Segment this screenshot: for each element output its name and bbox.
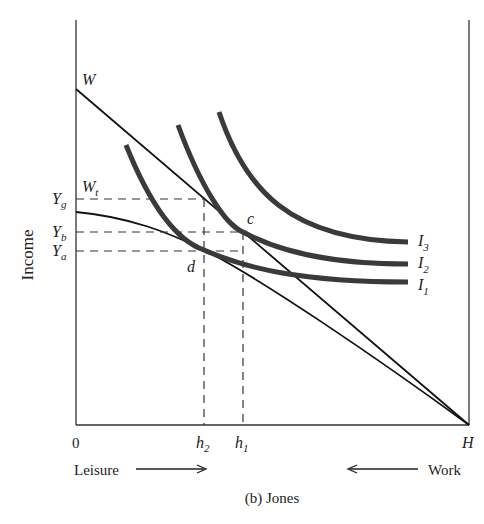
point-d-label: d [187,258,196,275]
i2-label: I2 [417,254,429,275]
ya-label: Ya [52,242,67,262]
leisure-arrow-icon [136,465,206,473]
work-label: Work [428,462,461,478]
w-label: W [82,71,97,88]
point-c-label: c [247,210,254,227]
yg-label: Yg [52,190,67,210]
yb-label: Yb [52,223,67,243]
budget-line-w [76,89,469,425]
i3-label: I3 [417,232,429,253]
h-label: H [461,434,475,451]
work-arrow-icon [348,465,418,473]
caption: (b) Jones [245,490,300,507]
dashed-guides [76,199,243,425]
labor-leisure-diagram: Income W Wt Yg Yb Ya c d I3 I2 I1 0 h2 h… [0,0,484,524]
i1-label: I1 [417,276,429,297]
origin-label: 0 [72,435,80,451]
h2-label: h2 [196,434,210,454]
indifference-curve-i2 [178,125,408,264]
wt-label: Wt [82,178,99,198]
leisure-label: Leisure [74,462,119,478]
y-axis-label: Income [18,230,37,281]
h1-label: h1 [235,434,249,454]
